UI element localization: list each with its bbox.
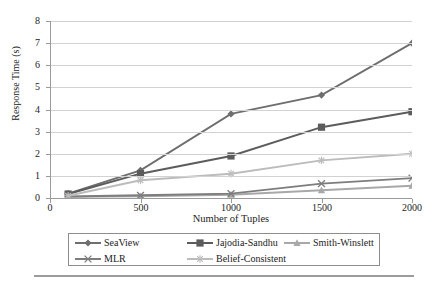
gridline: [50, 87, 412, 88]
legend-label: Jajodia-Sandhu: [216, 237, 278, 248]
smith-winslett-marker-icon: [284, 237, 310, 249]
y-tick-label: 6: [0, 60, 40, 70]
y-tick-mark: [46, 110, 50, 111]
legend-label: Belief-Consistent: [216, 253, 286, 264]
star-marker-icon: [318, 157, 326, 165]
diamond-marker-icon: [84, 239, 91, 246]
gridline: [50, 65, 412, 66]
x-tick-label: 1500: [297, 203, 347, 213]
legend-label: SeaView: [104, 237, 140, 248]
plot-area: [50, 21, 412, 198]
belief-consistent-marker-icon: [187, 253, 213, 265]
gridline: [50, 21, 412, 22]
y-tick-mark: [46, 21, 50, 22]
legend-item-seaview[interactable]: SeaView: [75, 235, 140, 250]
triangle-marker-icon: [293, 239, 300, 246]
legend-item-mlr[interactable]: MLR: [75, 251, 126, 266]
x-tick-label: 2000: [387, 203, 437, 213]
y-tick-mark: [46, 154, 50, 155]
gridline: [50, 176, 412, 177]
y-tick-mark: [46, 43, 50, 44]
y-tick-label: 0: [0, 193, 40, 203]
x-tick-label: 500: [116, 203, 166, 213]
legend-item-belief-consistent[interactable]: Belief-Consistent: [187, 251, 286, 266]
y-tick-mark: [46, 176, 50, 177]
legend-item-smith-winslett[interactable]: Smith-Winslett: [284, 235, 374, 250]
gridline: [50, 132, 412, 133]
y-tick-label: 1: [0, 171, 40, 181]
x-marker-icon: [85, 255, 92, 262]
series-line-belief-consistent: [68, 154, 412, 196]
y-tick-label: 5: [0, 82, 40, 92]
seaview-marker-icon: [75, 237, 101, 249]
y-tick-label: 2: [0, 149, 40, 159]
mlr-marker-icon: [75, 253, 101, 265]
gridline: [50, 43, 412, 44]
y-tick-mark: [46, 132, 50, 133]
legend-row-1: SeaView Jajodia-Sandhu Smith-Winslett: [69, 235, 379, 250]
x-tick-label: 1000: [206, 203, 256, 213]
x-tick-label: 0: [25, 203, 75, 213]
figure: Response Time (s) Number of Tuples SeaVi…: [0, 0, 448, 282]
legend-label: MLR: [104, 253, 126, 264]
star-marker-icon: [137, 177, 145, 185]
y-tick-mark: [46, 65, 50, 66]
y-tick-mark: [46, 87, 50, 88]
legend-item-jajodia-sandhu[interactable]: Jajodia-Sandhu: [187, 235, 278, 250]
square-marker-icon: [196, 239, 203, 246]
legend: SeaView Jajodia-Sandhu Smith-Winslett ML…: [68, 233, 380, 266]
y-tick-label: 8: [0, 16, 40, 26]
gridline: [50, 110, 412, 111]
star-marker-icon: [196, 255, 204, 263]
jajodia-sandhu-marker-icon: [187, 237, 213, 249]
legend-label: Smith-Winslett: [313, 237, 374, 248]
y-tick-label: 4: [0, 105, 40, 115]
bottom-divider: [34, 275, 414, 277]
gridline: [50, 154, 412, 155]
x-axis-label: Number of Tuples: [50, 213, 412, 225]
y-axis-line: [50, 21, 51, 199]
y-tick-label: 3: [0, 127, 40, 137]
square-marker-icon: [318, 124, 325, 131]
legend-row-2: MLR Belief-Consistent: [69, 251, 379, 266]
y-tick-label: 7: [0, 38, 40, 48]
